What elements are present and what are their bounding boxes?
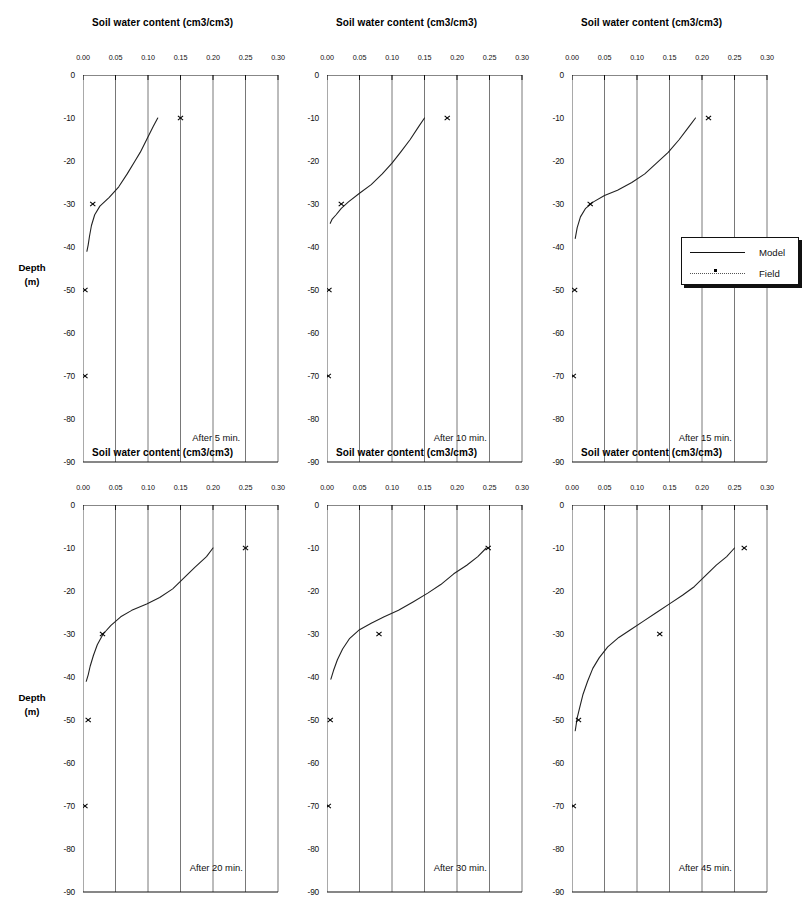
model-curve bbox=[575, 548, 734, 731]
y-tick-label: -70 bbox=[43, 371, 75, 381]
panel-time-caption: After 15 min. bbox=[679, 432, 732, 443]
field-marker bbox=[328, 718, 333, 722]
y-tick-label: -50 bbox=[532, 285, 564, 295]
model-line-icon bbox=[690, 252, 745, 253]
x-tick-label: 0.20 bbox=[206, 483, 220, 492]
x-tick-label: 0.05 bbox=[353, 53, 367, 62]
field-marker bbox=[572, 374, 576, 378]
y-tick-label: -20 bbox=[532, 586, 564, 596]
field-marker bbox=[588, 202, 593, 206]
y-tick-label: -20 bbox=[532, 156, 564, 166]
chart-panel-6: Soil water content (cm3/cm3)0.000.050.10… bbox=[502, 447, 787, 904]
x-tick-label: 0.00 bbox=[76, 483, 90, 492]
x-tick-label: 0.20 bbox=[695, 483, 709, 492]
chart-panel-2: Soil water content (cm3/cm3)0.000.050.10… bbox=[257, 17, 542, 474]
y-tick-label: -10 bbox=[43, 543, 75, 553]
model-curve bbox=[87, 118, 158, 251]
y-tick-label: -60 bbox=[287, 328, 319, 338]
x-tick-label: 0.00 bbox=[320, 53, 334, 62]
chart-legend: ModelField bbox=[681, 237, 799, 285]
field-marker bbox=[83, 288, 88, 292]
x-tick-label: 0.20 bbox=[695, 53, 709, 62]
x-tick-label: 0.15 bbox=[418, 483, 432, 492]
x-tick-label: 0.00 bbox=[565, 53, 579, 62]
x-tick-label: 0.20 bbox=[450, 483, 464, 492]
y-tick-label: -10 bbox=[532, 113, 564, 123]
y-tick-label: -40 bbox=[532, 242, 564, 252]
x-tick-label: 0.05 bbox=[109, 483, 123, 492]
x-tick-label: 0.25 bbox=[239, 53, 253, 62]
x-tick-label: 0.25 bbox=[728, 483, 742, 492]
x-tick-label: 0.15 bbox=[174, 483, 188, 492]
panel-time-caption: After 30 min. bbox=[434, 862, 487, 873]
y-tick-label: -30 bbox=[43, 199, 75, 209]
y-tick-label: -10 bbox=[287, 543, 319, 553]
x-tick-label: 0.25 bbox=[728, 53, 742, 62]
x-tick-label: 0.15 bbox=[418, 53, 432, 62]
x-tick-label: 0.30 bbox=[760, 483, 774, 492]
y-tick-label: 0 bbox=[532, 70, 564, 80]
legend-label-field: Field bbox=[759, 268, 780, 279]
x-tick-label: 0.05 bbox=[109, 53, 123, 62]
x-tick-label: 0.25 bbox=[483, 483, 497, 492]
x-axis-title: Soil water content (cm3/cm3) bbox=[502, 17, 787, 28]
y-tick-label: 0 bbox=[43, 70, 75, 80]
y-tick-label: -60 bbox=[43, 328, 75, 338]
y-tick-label: -70 bbox=[287, 801, 319, 811]
y-tick-label: -20 bbox=[43, 156, 75, 166]
chart-panel-4: Soil water content (cm3/cm3)0.000.050.10… bbox=[13, 447, 298, 904]
y-tick-label: -40 bbox=[287, 672, 319, 682]
field-marker bbox=[327, 804, 331, 808]
model-curve bbox=[330, 118, 424, 223]
y-axis-title: Depth(m) bbox=[4, 691, 60, 719]
y-tick-label: -80 bbox=[43, 414, 75, 424]
model-curve bbox=[86, 548, 213, 681]
x-tick-label: 0.10 bbox=[385, 483, 399, 492]
y-tick-label: -70 bbox=[532, 371, 564, 381]
y-axis-title-line2: (m) bbox=[4, 705, 60, 719]
y-tick-label: -80 bbox=[287, 414, 319, 424]
x-tick-label: 0.10 bbox=[141, 483, 155, 492]
x-tick-label: 0.15 bbox=[174, 53, 188, 62]
field-dotted-line-icon bbox=[690, 273, 745, 274]
y-axis-title-line1: Depth bbox=[4, 691, 60, 705]
y-tick-label: -80 bbox=[532, 844, 564, 854]
y-tick-label: -10 bbox=[532, 543, 564, 553]
y-tick-label: -60 bbox=[287, 758, 319, 768]
field-marker-swatch bbox=[690, 268, 745, 278]
x-tick-label: 0.30 bbox=[760, 53, 774, 62]
field-marker bbox=[83, 374, 88, 378]
y-tick-label: -80 bbox=[43, 844, 75, 854]
field-marker bbox=[742, 546, 747, 550]
x-tick-label: 0.00 bbox=[76, 53, 90, 62]
y-tick-label: -40 bbox=[43, 242, 75, 252]
field-marker bbox=[90, 202, 95, 206]
y-tick-label: -70 bbox=[287, 371, 319, 381]
y-tick-label: -80 bbox=[287, 844, 319, 854]
y-tick-label: -40 bbox=[287, 242, 319, 252]
y-tick-label: 0 bbox=[287, 500, 319, 510]
y-tick-label: 0 bbox=[287, 70, 319, 80]
y-tick-label: -90 bbox=[287, 887, 319, 897]
y-tick-label: -70 bbox=[532, 801, 564, 811]
y-tick-label: -30 bbox=[287, 199, 319, 209]
x-axis-title: Soil water content (cm3/cm3) bbox=[13, 447, 298, 458]
x-axis-title: Soil water content (cm3/cm3) bbox=[13, 17, 298, 28]
x-tick-label: 0.00 bbox=[565, 483, 579, 492]
legend-row-model: Model bbox=[682, 242, 798, 262]
field-marker bbox=[706, 116, 711, 120]
y-tick-label: -50 bbox=[287, 715, 319, 725]
field-marker bbox=[83, 804, 88, 808]
legend-row-field: Field bbox=[682, 263, 798, 283]
y-tick-label: -10 bbox=[43, 113, 75, 123]
y-axis-title-line1: Depth bbox=[4, 261, 60, 275]
x-tick-label: 0.15 bbox=[663, 53, 677, 62]
chart-panel-1: Soil water content (cm3/cm3)0.000.050.10… bbox=[13, 17, 298, 474]
x-tick-label: 0.05 bbox=[353, 483, 367, 492]
y-tick-label: -60 bbox=[532, 328, 564, 338]
x-tick-label: 0.10 bbox=[141, 53, 155, 62]
x-tick-label: 0.25 bbox=[239, 483, 253, 492]
y-tick-label: -60 bbox=[532, 758, 564, 768]
field-marker bbox=[327, 288, 332, 292]
field-marker bbox=[572, 804, 576, 808]
